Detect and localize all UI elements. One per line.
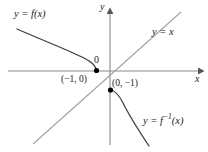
identity-line-label: y = x — [152, 27, 174, 38]
point-marker-neg1-0 — [94, 68, 99, 73]
point-label-0-neg1: (0, −1) — [112, 79, 138, 89]
function-curve-label: y = f(x) — [14, 9, 46, 20]
point-label-neg1-0: (−1, 0) — [61, 75, 87, 85]
inverse-curve-label-suffix: (x) — [172, 115, 184, 126]
graph-canvas — [0, 0, 208, 152]
inverse-curve-label-prefix: y = f — [143, 115, 163, 126]
function-inverse-graph-figure: y = f(x) y = f−1(x) y = x y x 0 (−1, 0) … — [0, 0, 208, 152]
inverse-curve-label: y = f−1(x) — [143, 113, 183, 126]
y-axis-label: y — [100, 2, 104, 12]
x-axis-label: x — [195, 74, 199, 84]
origin-label: 0 — [94, 55, 99, 65]
inverse-curve-label-exponent: −1 — [163, 112, 172, 121]
function-curve-f — [17, 29, 97, 71]
y-axis-arrowhead — [107, 8, 114, 15]
